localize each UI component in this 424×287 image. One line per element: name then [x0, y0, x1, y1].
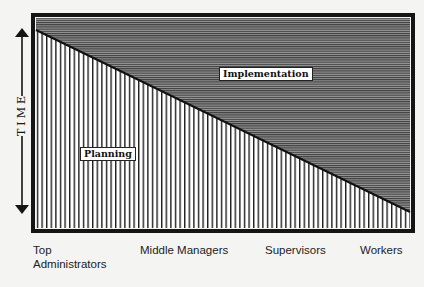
- x-label-middle-managers: Middle Managers: [140, 243, 228, 257]
- x-label-line2: Administrators: [33, 257, 107, 271]
- planning-label: Planning: [80, 147, 136, 161]
- time-axis-label: TIME: [15, 96, 29, 136]
- x-label-supervisors: Supervisors: [265, 243, 326, 257]
- implementation-label: Implementation: [219, 67, 313, 81]
- arrow-up-icon: [15, 28, 29, 37]
- x-label-line1: Top: [33, 243, 107, 257]
- arrow-down-icon: [15, 205, 29, 214]
- x-label-top-administrators: Top Administrators: [33, 243, 107, 271]
- x-label-workers: Workers: [360, 243, 403, 257]
